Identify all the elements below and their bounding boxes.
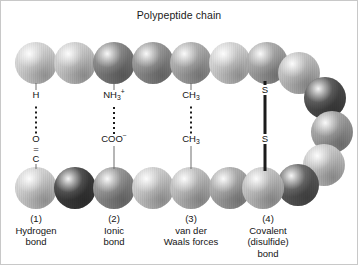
carbonyl-carbon-label: C [33,154,40,164]
residue-sphere [15,42,57,84]
caption-number: (2) [103,213,124,225]
caption-number: (3) [164,213,219,225]
residue-sphere [170,42,212,84]
methyl-group-lower-label: CH3 [182,134,200,144]
polypeptide-bonds-figure: Polypeptide chain H O = C NH3+ COO− [0,0,358,265]
caption-covalent-disulfide: (4) Covalent (disulfide) bond [247,213,288,259]
caption-line-1: van der [164,225,219,237]
methyl-group-upper-label: CH3 [182,90,200,100]
carboxylate-group-label: COO− [101,134,127,144]
bond-stem [114,146,115,169]
residue-sphere [170,167,212,209]
residue-sphere [132,42,174,84]
caption-number: (4) [247,213,288,225]
caption-line-2: Waals forces [164,236,219,248]
ammonium-group-label: NH3+ [103,90,125,100]
bond-stem [191,146,192,169]
van-der-waals-dotted-line [190,104,192,134]
sulfur-atom-lower-label: S [261,134,269,144]
figure-title: Polypeptide chain [1,9,357,21]
caption-ionic-bond: (2) Ionic bond [103,213,124,248]
residue-sphere [54,42,96,84]
bond-stem [36,164,37,169]
caption-line-1: Hydrogen [15,225,56,237]
residue-sphere [93,42,135,84]
caption-line-1: Covalent [247,225,288,237]
residue-sphere [54,167,96,209]
hydrogen-donor-label: H [33,90,40,100]
residue-sphere [93,167,135,209]
caption-line-2: (disulfide) [247,236,288,248]
residue-sphere [132,167,174,209]
caption-line-2: bond [103,236,124,248]
hydrogen-bond-dotted-line [35,104,37,134]
residue-sphere [209,42,251,84]
sulfur-atom-upper-label: S [261,85,269,95]
caption-van-der-waals: (3) van der Waals forces [164,213,219,248]
residue-sphere [15,167,57,209]
caption-line-1: Ionic [103,225,124,237]
caption-line-3: bond [247,248,288,260]
ionic-bond-dotted-line [113,105,115,134]
caption-hydrogen-bond: (1) Hydrogen bond [15,213,56,248]
caption-number: (1) [15,213,56,225]
residue-sphere [242,167,284,209]
caption-line-2: bond [15,236,56,248]
